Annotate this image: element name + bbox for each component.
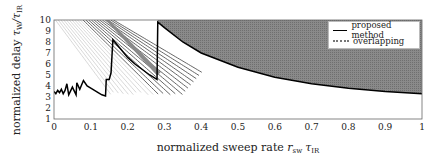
x-tick-label: 0.6 [268,122,283,132]
x-tick-label: 0.4 [194,122,209,132]
y-tick-label: 2 [45,103,51,113]
overlap-curve [78,20,149,95]
solid-line-swatch-icon [333,30,347,31]
x-tick-label: 0.5 [231,122,246,132]
y-tick-label: 9 [45,26,51,36]
overlap-curve [58,20,113,92]
chart-legend: proposed method overlapping [328,21,420,49]
x-tick-label: 0.8 [341,122,356,132]
y-axis-ticks: 12345678910 [40,15,52,124]
x-axis-ticks: 00.10.20.30.40.50.60.70.80.91 [51,122,425,132]
y-tick-label: 10 [40,15,52,25]
x-tick-label: 0 [51,122,57,132]
x-tick-label: 1 [419,122,425,132]
chart-figure: 00.10.20.30.40.50.60.70.80.91 1234567891… [0,0,442,156]
legend-item-overlapping: overlapping [333,35,404,47]
y-tick-label: 5 [45,70,51,80]
dotted-swatch-icon [333,40,349,42]
y-tick-label: 4 [45,81,51,91]
x-tick-label: 0.2 [120,122,134,132]
legend-label: overlapping [353,36,404,46]
y-tick-label: 1 [45,114,51,124]
x-tick-label: 0.7 [304,122,319,132]
x-tick-label: 0.9 [378,122,393,132]
y-tick-label: 6 [45,59,51,69]
y-tick-label: 7 [45,48,51,58]
x-axis-label: normalized sweep rate rswτIR [157,141,320,155]
y-tick-label: 3 [45,92,51,102]
x-tick-label: 0.1 [84,122,98,132]
y-axis-label: normalized delay τW/τIR [10,4,24,135]
x-tick-label: 0.3 [157,122,172,132]
y-tick-label: 8 [45,37,51,47]
